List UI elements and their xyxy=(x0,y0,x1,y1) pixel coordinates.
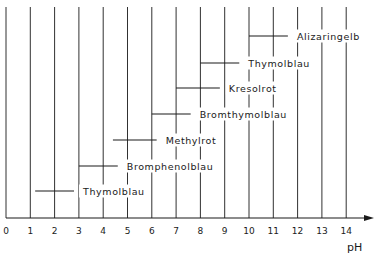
x-tick-label: 11 xyxy=(268,226,279,236)
x-tick-label: 13 xyxy=(316,226,327,236)
x-axis-label: pH xyxy=(347,241,362,254)
x-tick-labels: 01234567891011121314 xyxy=(3,226,352,236)
x-tick-label: 8 xyxy=(198,226,204,236)
indicator-label: Bromphenolblau xyxy=(127,161,214,172)
x-tick-label: 14 xyxy=(340,226,352,236)
indicator-label: Bromthymolblau xyxy=(200,109,287,120)
indicator-label: Methylrot xyxy=(166,135,217,146)
x-tick-label: 3 xyxy=(76,226,82,236)
x-tick-label: 12 xyxy=(292,226,303,236)
x-tick-label: 10 xyxy=(243,226,255,236)
x-tick-label: 7 xyxy=(173,226,179,236)
ph-indicator-chart: 01234567891011121314 ThymolblauBrompheno… xyxy=(0,0,377,255)
x-axis-arrow-icon xyxy=(364,215,374,221)
x-tick-label: 9 xyxy=(222,226,228,236)
indicator-label: Thymolblau xyxy=(82,186,145,197)
x-tick-label: 0 xyxy=(3,226,9,236)
indicator-label: Kresolrot xyxy=(229,83,277,94)
x-tick-label: 2 xyxy=(52,226,58,236)
indicator-label: Thymolblau xyxy=(247,58,310,69)
x-tick-label: 4 xyxy=(100,226,106,236)
x-tick-label: 1 xyxy=(27,226,33,236)
indicator-label: Alizaringelb xyxy=(297,31,360,42)
x-tick-label: 6 xyxy=(149,226,155,236)
x-tick-label: 5 xyxy=(125,226,131,236)
indicator-ranges: ThymolblauBromphenolblauMethylrotBromthy… xyxy=(35,30,363,198)
